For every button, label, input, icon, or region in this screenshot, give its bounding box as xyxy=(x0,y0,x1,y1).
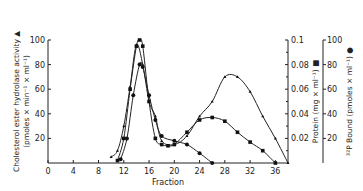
x-tick-label: 36 xyxy=(270,167,280,176)
data-point-triangle xyxy=(116,149,119,152)
data-point-square xyxy=(173,143,177,147)
protein-tick-label: 0.08 xyxy=(291,61,309,70)
data-point-square xyxy=(185,130,189,134)
data-point-circle xyxy=(153,118,157,122)
x-tick-label: 0 xyxy=(45,167,50,176)
data-point-square xyxy=(261,149,265,153)
data-point-circle xyxy=(172,139,176,143)
data-point-square xyxy=(274,161,278,165)
data-point-square xyxy=(135,44,139,48)
x-tick-label: 24 xyxy=(194,167,204,176)
data-point-circle xyxy=(198,151,202,155)
data-point-square xyxy=(198,118,202,122)
protein-tick-label: 0.06 xyxy=(291,85,309,94)
data-point-circle xyxy=(131,93,135,97)
data-point-square xyxy=(138,38,142,42)
series-line-cholesterol-ester-hydrolase-activity xyxy=(111,44,288,163)
protein-tick-label: 0.1 xyxy=(291,36,304,45)
x-tick-label: 28 xyxy=(220,167,230,176)
data-point-square xyxy=(248,140,252,144)
bound-tick-label: 40 xyxy=(327,110,337,119)
left-tick-label: 80 xyxy=(35,61,45,70)
x-tick-label: 4 xyxy=(71,167,76,176)
data-point-square xyxy=(160,143,164,147)
x-tick-label: 16 xyxy=(144,167,154,176)
data-point-circle xyxy=(210,161,214,165)
chart: 04812162024283236Fraction20406080100Chol… xyxy=(0,0,363,191)
bound-tick-label: 80 xyxy=(327,61,337,70)
left-tick-label: 60 xyxy=(35,85,45,94)
data-point-circle xyxy=(125,136,129,140)
data-point-square xyxy=(128,87,132,91)
data-point-square xyxy=(210,116,214,120)
protein-axis-title: Protein (mg × ml⁻¹) ■ xyxy=(311,60,320,143)
left-tick-label: 20 xyxy=(35,134,45,143)
data-point-square xyxy=(154,137,158,141)
left-axis-title-line1: Cholesterol ester hydrolase activity ▲ xyxy=(12,31,21,172)
bound-axis-title: ³²P Bound (pmoles × ml⁻¹) ● xyxy=(345,47,354,156)
x-tick-label: 32 xyxy=(245,167,255,176)
data-point-circle xyxy=(185,143,189,147)
protein-tick-label: 0.02 xyxy=(291,134,309,143)
bound-tick-label: 100 xyxy=(327,36,342,45)
x-axis-title: Fraction xyxy=(152,178,184,187)
data-point-circle xyxy=(141,65,145,69)
bound-tick-label: 20 xyxy=(327,134,337,143)
labels: 04812162024283236Fraction20406080100Chol… xyxy=(12,31,354,187)
left-tick-label: 40 xyxy=(35,110,45,119)
data-point-square xyxy=(236,130,240,134)
series-line-32p-bound xyxy=(121,62,213,163)
protein-tick-label: 0.04 xyxy=(291,110,309,119)
data-point-circle xyxy=(160,134,164,138)
left-tick-label: 100 xyxy=(30,36,45,45)
data-point-triangle xyxy=(122,125,125,128)
data-point-circle xyxy=(138,63,142,67)
x-tick-label: 20 xyxy=(169,167,179,176)
bound-tick-label: 60 xyxy=(327,85,337,94)
series-layer xyxy=(110,38,290,165)
data-point-square xyxy=(223,119,227,123)
data-point-circle xyxy=(119,157,123,161)
x-tick-label: 12 xyxy=(119,167,129,176)
x-tick-label: 8 xyxy=(96,167,101,176)
left-axis-title-line2: (pmoles × min⁻¹ × ml⁻¹) xyxy=(22,55,31,148)
data-point-square xyxy=(141,44,145,48)
data-point-square xyxy=(166,144,170,148)
data-point-circle xyxy=(147,93,151,97)
